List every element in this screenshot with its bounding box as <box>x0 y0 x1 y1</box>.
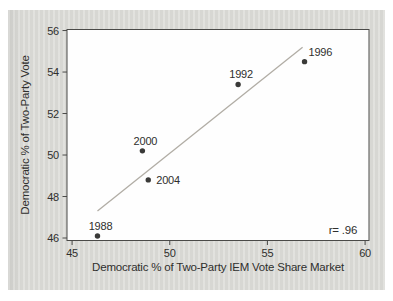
y-tick-label: 54 <box>47 66 59 78</box>
x-tick-label: 60 <box>359 247 371 259</box>
point-label-2004: 2004 <box>156 174 180 186</box>
y-tick-label: 56 <box>47 25 59 37</box>
scatter-chart: 45505560464850525456Democratic % of Two-… <box>0 0 393 301</box>
point-label-2000: 2000 <box>134 135 158 147</box>
data-point-1996 <box>302 59 307 64</box>
data-point-1988 <box>95 233 100 238</box>
scatterplot-figure: 45505560464850525456Democratic % of Two-… <box>0 0 393 301</box>
point-label-1992: 1992 <box>229 68 253 80</box>
plot-area <box>67 30 369 241</box>
y-tick-label: 50 <box>47 149 59 161</box>
x-axis-title: Democratic % of Two-Party IEM Vote Share… <box>92 261 345 273</box>
y-tick-label: 48 <box>47 191 59 203</box>
y-tick-label: 46 <box>47 232 59 244</box>
y-tick-label: 52 <box>47 108 59 120</box>
x-tick-label: 50 <box>164 247 176 259</box>
data-point-2000 <box>140 148 145 153</box>
point-label-1996: 1996 <box>309 46 333 58</box>
y-axis-title: Democratic % of Two-Party Vote <box>19 55 31 214</box>
data-point-1992 <box>235 82 240 87</box>
correlation-annotation: r= .96 <box>329 224 358 236</box>
x-tick-label: 55 <box>261 247 273 259</box>
x-tick-label: 45 <box>66 247 78 259</box>
data-point-2004 <box>146 177 151 182</box>
point-label-1988: 1988 <box>89 220 113 232</box>
